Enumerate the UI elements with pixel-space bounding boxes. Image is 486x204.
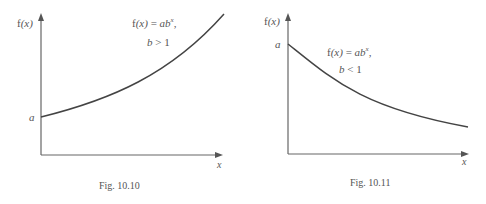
condition-label: b > 1	[147, 36, 170, 48]
condition-label: b < 1	[339, 63, 362, 75]
formula-label: f(x) = abx,	[132, 16, 177, 30]
caption-fig-10-10: Fig. 10.10	[99, 180, 140, 191]
x-axis-arrow-icon	[215, 152, 223, 158]
y-axis-label: f(x)	[17, 17, 33, 30]
y-axis-arrow-icon	[38, 13, 44, 21]
y-axis-arrow-icon	[285, 13, 291, 21]
decay-curve	[288, 44, 468, 127]
caption-fig-10-11: Fig. 10.11	[350, 177, 390, 188]
y-axis-label: f(x)	[264, 15, 280, 28]
y-intercept-label: a	[275, 38, 281, 50]
x-axis-label: x	[216, 159, 222, 170]
figure-10-10: f(x) a x f(x) = abx, b > 1	[0, 0, 243, 204]
figure-10-11: f(x) a x f(x) = abx, b < 1	[243, 0, 486, 204]
x-axis-label: x	[461, 156, 467, 167]
formula-label: f(x) = abx,	[327, 45, 372, 59]
growth-curve	[41, 14, 224, 117]
y-intercept-label: a	[29, 111, 35, 123]
